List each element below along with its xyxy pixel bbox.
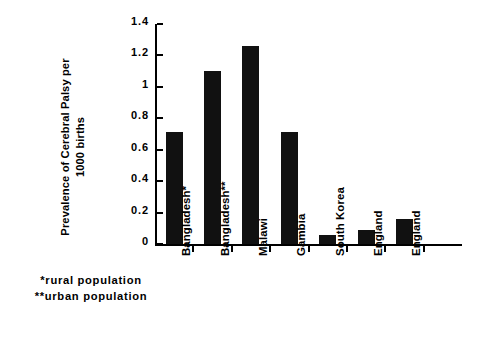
- y-tick-group: 0.2: [155, 212, 163, 214]
- y-tick-group: 1.2: [155, 54, 163, 56]
- y-axis-title: Prevalence of Cerebral Palsy per 1000 bi…: [53, 21, 93, 273]
- x-tick-mark: [346, 246, 348, 252]
- x-tick-mark: [231, 246, 233, 252]
- y-tick-mark: [157, 117, 163, 119]
- y-tick-label: 0.6: [131, 141, 149, 153]
- x-axis-label: Bangladesh*: [180, 186, 192, 256]
- x-tick-mark: [308, 246, 310, 252]
- x-axis-label: England: [410, 210, 422, 256]
- y-tick-label: 1.2: [131, 46, 149, 58]
- y-tick-label: 1.4: [131, 15, 149, 27]
- y-axis-title-text: Prevalence of Cerebral Palsy per 1000 bi…: [58, 58, 88, 235]
- x-axis-label: South Korea: [334, 187, 346, 256]
- y-tick-label: 0.4: [131, 172, 149, 184]
- x-tick-mark: [269, 246, 271, 252]
- y-tick-mark: [157, 54, 163, 56]
- y-tick-group: 1: [155, 86, 163, 88]
- chart-figure: Prevalence of Cerebral Palsy per 1000 bi…: [0, 0, 482, 347]
- y-tick-group: 0.8: [155, 117, 163, 119]
- x-axis-label: England: [372, 210, 384, 256]
- y-tick-label: 0.8: [131, 109, 149, 121]
- y-tick-mark: [157, 212, 163, 214]
- x-axis-label: Gambia: [295, 214, 307, 256]
- x-axis-label: Bangladesh**: [219, 181, 231, 256]
- y-tick-group: 0: [155, 243, 163, 245]
- x-tick-mark: [192, 246, 194, 252]
- y-tick-group: 0.6: [155, 149, 163, 151]
- y-tick-mark: [157, 180, 163, 182]
- y-tick-label: 0.2: [131, 204, 149, 216]
- y-tick-mark: [157, 243, 163, 245]
- y-tick-mark: [157, 149, 163, 151]
- y-tick-group: 0.4: [155, 180, 163, 182]
- x-tick-mark: [423, 246, 425, 252]
- y-tick-label: 1: [142, 78, 149, 90]
- y-tick-group: 1.4: [155, 23, 163, 25]
- y-tick-label: 0: [142, 235, 149, 247]
- footnote-urban: **urban population: [16, 288, 166, 304]
- bar: [242, 46, 259, 244]
- x-tick-mark: [384, 246, 386, 252]
- y-tick-mark: [157, 23, 163, 25]
- footnote-rural: *rural population: [16, 272, 166, 288]
- x-axis-label: Malawi: [257, 218, 269, 256]
- footnote-block: *rural population **urban population: [16, 272, 166, 304]
- y-tick-mark: [157, 86, 163, 88]
